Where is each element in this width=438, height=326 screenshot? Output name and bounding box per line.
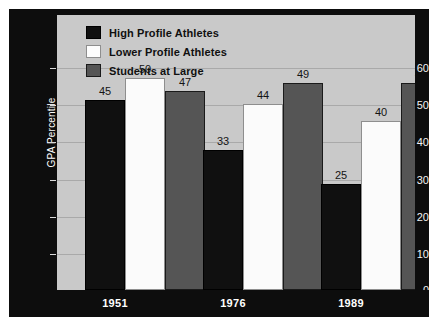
legend-swatch-gray-icon — [86, 64, 101, 77]
bar-1976-high-profile-athletes — [203, 150, 243, 290]
bar-value-1951-high-profile-athletes: 45 — [85, 86, 125, 97]
bar-1989-lower-profile-athletes — [361, 121, 401, 290]
legend-swatch-black-icon — [86, 26, 101, 39]
chart-figure: GPA Percentile 60 50 40 30 20 10 0 45 50 — [9, 9, 429, 317]
y-tick-mark-50 — [50, 105, 56, 106]
x-tick-label-1951: 1951 — [85, 297, 145, 309]
legend-label-high-profile-athletes: High Profile Athletes — [109, 27, 219, 39]
bar-value-1989-students-at-large: 49 — [401, 69, 415, 80]
legend-item-students-at-large: Students at Large — [86, 62, 227, 79]
y-tick-mark-20 — [50, 217, 56, 218]
legend-swatch-white-icon — [86, 45, 101, 58]
x-tick-label-1989: 1989 — [321, 297, 381, 309]
bar-1951-students-at-large — [165, 91, 205, 290]
plot-area: 45 50 47 33 44 49 25 40 49 High Profile … — [57, 15, 415, 290]
legend-item-high-profile-athletes: High Profile Athletes — [86, 24, 227, 41]
legend-item-lower-profile-athletes: Lower Profile Athletes — [86, 43, 227, 60]
bar-value-1976-lower-profile-athletes: 44 — [243, 90, 283, 101]
bar-value-1989-lower-profile-athletes: 40 — [361, 107, 401, 118]
bar-1989-high-profile-athletes — [321, 184, 361, 290]
y-tick-mark-10 — [50, 254, 56, 255]
legend-label-lower-profile-athletes: Lower Profile Athletes — [109, 46, 227, 58]
bar-value-1989-high-profile-athletes: 25 — [321, 170, 361, 181]
bar-1951-high-profile-athletes — [85, 100, 125, 290]
y-tick-mark-30 — [50, 180, 56, 181]
x-tick-label-1976: 1976 — [203, 297, 263, 309]
bar-1976-lower-profile-athletes — [243, 104, 283, 290]
bar-1951-lower-profile-athletes — [125, 78, 165, 290]
y-axis-title: GPA Percentile — [46, 73, 57, 193]
bar-value-1976-students-at-large: 49 — [283, 69, 323, 80]
bar-1976-students-at-large — [283, 83, 323, 290]
y-tick-mark-60 — [50, 68, 56, 69]
bar-value-1976-high-profile-athletes: 33 — [203, 136, 243, 147]
y-tick-mark-40 — [50, 142, 56, 143]
legend-label-students-at-large: Students at Large — [109, 65, 204, 77]
bar-1989-students-at-large — [401, 83, 415, 290]
chart-legend: High Profile Athletes Lower Profile Athl… — [86, 24, 227, 81]
x-axis-band: 1951 1976 1989 — [9, 290, 429, 317]
